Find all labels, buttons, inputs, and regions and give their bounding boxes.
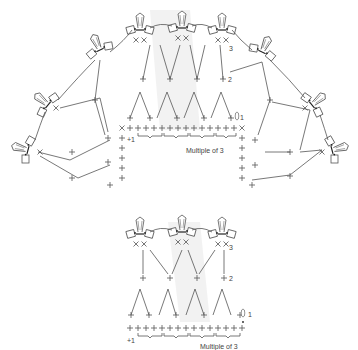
crochet-chart-canvas: +1 Multiple of 3 1 2 3 [0,0,358,350]
straight-foundation-row [127,325,245,338]
fan-repeat-label: Multiple of 3 [186,147,224,155]
straight-repeat-label: Multiple of 3 [200,343,238,350]
fan-foundation-row [119,125,245,181]
fan-right-arm [230,30,352,188]
fan-row-3-label: 3 [229,45,233,52]
straight-row-3-label: 3 [229,244,233,251]
fan-left-arm [8,29,132,188]
straight-row-1-label: 1 [248,311,252,318]
fan-diagram: +1 Multiple of 3 1 2 3 [8,10,352,188]
straight-row-2-label: 2 [229,275,233,282]
straight-diagram: +1 Multiple of 3 1 2 3 [126,215,252,350]
fan-row-1-label: 1 [240,114,244,121]
fan-start-label: +1 [127,136,135,143]
fan-row-2-label: 2 [228,76,232,83]
straight-start-label: +1 [127,337,135,344]
